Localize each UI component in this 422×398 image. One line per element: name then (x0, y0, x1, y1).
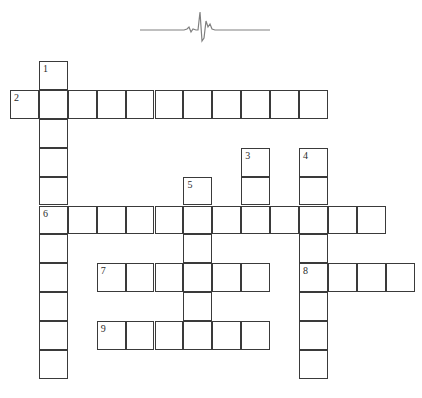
crossword-cell[interactable] (39, 90, 68, 119)
crossword-cell[interactable] (299, 321, 328, 350)
crossword-cell[interactable] (126, 263, 155, 292)
crossword-cell[interactable] (126, 206, 155, 235)
crossword-cell[interactable] (299, 90, 328, 119)
crossword-cell[interactable] (241, 177, 270, 206)
crossword-cell[interactable] (241, 90, 270, 119)
crossword-cell[interactable] (299, 206, 328, 235)
crossword-cell[interactable] (39, 350, 68, 379)
crossword-cell[interactable] (328, 206, 357, 235)
crossword-cell[interactable] (39, 119, 68, 148)
cell-number: 8 (303, 265, 308, 277)
crossword-cell[interactable] (39, 321, 68, 350)
crossword-cell[interactable] (68, 90, 97, 119)
crossword-cell[interactable] (126, 321, 155, 350)
crossword-cell[interactable] (97, 206, 126, 235)
cell-number: 4 (303, 150, 308, 162)
crossword-cell[interactable] (357, 263, 386, 292)
crossword-cell[interactable] (241, 263, 270, 292)
crossword-cell[interactable] (328, 263, 357, 292)
crossword-cell[interactable] (155, 90, 184, 119)
crossword-cell[interactable] (39, 234, 68, 263)
crossword-cell[interactable]: 1 (39, 61, 68, 90)
crossword-cell[interactable] (183, 206, 212, 235)
crossword-cell[interactable]: 4 (299, 148, 328, 177)
crossword-cell[interactable] (299, 234, 328, 263)
crossword-cell[interactable] (155, 206, 184, 235)
crossword-cell[interactable] (39, 177, 68, 206)
crossword-cell[interactable] (183, 263, 212, 292)
cell-number: 6 (43, 208, 48, 220)
crossword-cell[interactable] (68, 206, 97, 235)
crossword-cell[interactable] (241, 321, 270, 350)
crossword-cell[interactable] (270, 206, 299, 235)
crossword-cell[interactable]: 5 (183, 177, 212, 206)
crossword-cell[interactable] (155, 263, 184, 292)
cell-number: 7 (101, 265, 106, 277)
crossword-cell[interactable] (97, 90, 126, 119)
crossword-cell[interactable] (183, 90, 212, 119)
crossword-cell[interactable] (39, 148, 68, 177)
crossword-cell[interactable]: 3 (241, 148, 270, 177)
cell-number: 2 (14, 92, 19, 104)
crossword-cell[interactable]: 7 (97, 263, 126, 292)
crossword-cell[interactable] (39, 292, 68, 321)
crossword-cell[interactable] (212, 263, 241, 292)
crossword-cell[interactable] (299, 350, 328, 379)
crossword-cell[interactable] (126, 90, 155, 119)
crossword-cell[interactable] (183, 234, 212, 263)
crossword-cell[interactable]: 9 (97, 321, 126, 350)
crossword-cell[interactable] (155, 321, 184, 350)
crossword-cell[interactable]: 2 (10, 90, 39, 119)
crossword-cell[interactable] (299, 177, 328, 206)
cell-number: 9 (101, 323, 106, 335)
crossword-cell[interactable] (299, 292, 328, 321)
crossword-cell[interactable] (386, 263, 415, 292)
crossword-cell[interactable] (270, 90, 299, 119)
crossword-cell[interactable]: 6 (39, 206, 68, 235)
crossword-cell[interactable] (212, 321, 241, 350)
crossword-cell[interactable] (241, 206, 270, 235)
crossword-cell[interactable] (212, 206, 241, 235)
cell-number: 1 (43, 63, 48, 75)
cell-number: 3 (245, 150, 250, 162)
crossword-cell[interactable] (212, 90, 241, 119)
crossword-cell[interactable] (357, 206, 386, 235)
crossword-cell[interactable] (183, 321, 212, 350)
crossword-cell[interactable] (39, 263, 68, 292)
cell-number: 5 (187, 179, 192, 191)
crossword-cell[interactable]: 8 (299, 263, 328, 292)
crossword-grid: 123456789 (0, 0, 422, 398)
crossword-cell[interactable] (183, 292, 212, 321)
